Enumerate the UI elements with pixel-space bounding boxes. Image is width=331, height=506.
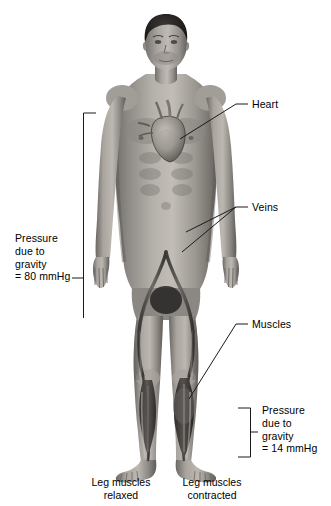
nipple-left	[138, 136, 143, 140]
nipple-right	[188, 136, 193, 140]
jaw-shadow	[154, 51, 178, 65]
callout-label-heart: Heart	[252, 98, 278, 111]
anatomical-diagram: Pressure due to gravity = 80 mmHg Pressu…	[0, 0, 331, 506]
callout-label-muscles: Muscles	[252, 318, 291, 331]
bracket-label-upper-pressure: Pressure due to gravity = 80 mmHg	[15, 232, 93, 283]
groin-shadow	[150, 286, 182, 314]
bracket-label-lower-pressure: Pressure due to gravity = 14 mmHg	[262, 404, 331, 455]
callout-label-veins: Veins	[252, 201, 278, 214]
caption-right-leg: Leg muscles contracted	[166, 476, 258, 502]
caption-left-leg: Leg muscles relaxed	[78, 476, 164, 502]
